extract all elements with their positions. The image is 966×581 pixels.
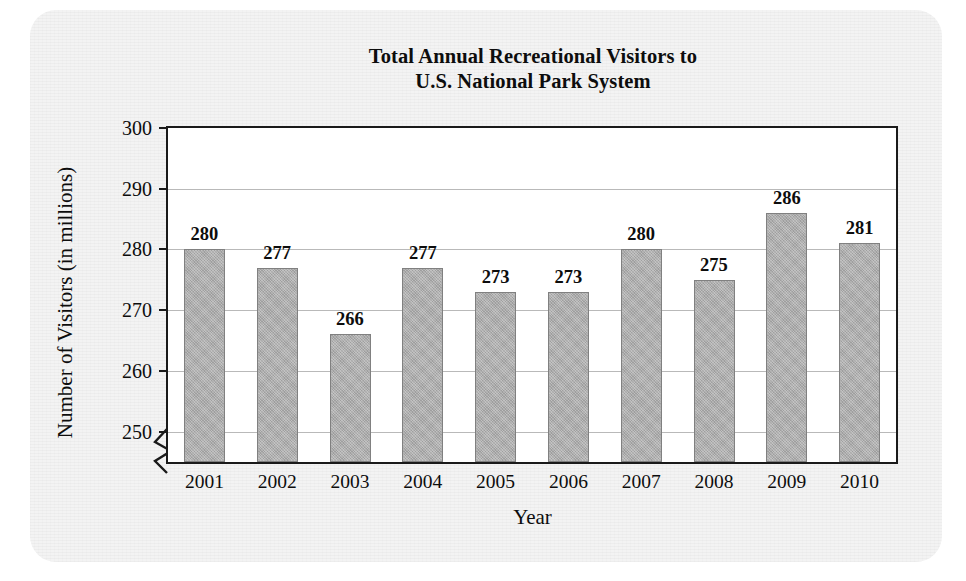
- y-tick-label-300: 300: [92, 118, 152, 138]
- y-tick-label-250: 250: [92, 422, 152, 442]
- chart-title-line-2: U.S. National Park System: [160, 69, 906, 94]
- bar-2005: [475, 292, 516, 462]
- bar-value-label-2001: 280: [168, 224, 241, 245]
- bar-2003: [330, 334, 371, 462]
- y-tick-label-280: 280: [92, 239, 152, 259]
- x-tick-label-2010: 2010: [823, 471, 896, 493]
- plot-area: 280277266277273273280275286281: [166, 126, 898, 464]
- bar-2002: [257, 268, 298, 462]
- y-tick-mark-290: [159, 188, 166, 190]
- bar-value-label-2010: 281: [823, 218, 896, 239]
- plot-inner: 280277266277273273280275286281: [168, 128, 896, 462]
- x-tick-label-2005: 2005: [459, 471, 532, 493]
- bar-value-label-2005: 273: [459, 267, 532, 288]
- x-tick-label-2008: 2008: [678, 471, 751, 493]
- x-tick-label-2006: 2006: [532, 471, 605, 493]
- chart-title: Total Annual Recreational Visitors to U.…: [160, 44, 906, 94]
- x-tick-label-2007: 2007: [605, 471, 678, 493]
- x-tick-label-2001: 2001: [168, 471, 241, 493]
- y-tick-mark-300: [159, 127, 166, 129]
- y-tick-mark-260: [159, 370, 166, 372]
- chart-title-line-1: Total Annual Recreational Visitors to: [160, 44, 906, 69]
- y-tick-label-260: 260: [92, 361, 152, 381]
- chart-page: Total Annual Recreational Visitors to U.…: [0, 0, 966, 581]
- bar-value-label-2006: 273: [532, 267, 605, 288]
- y-axis-title: Number of Visitors (in millions): [53, 128, 78, 478]
- x-tick-label-2003: 2003: [314, 471, 387, 493]
- bar-value-label-2008: 275: [678, 255, 751, 276]
- bar-2006: [548, 292, 589, 462]
- x-axis-title: Year: [165, 505, 900, 530]
- y-tick-mark-280: [159, 248, 166, 250]
- bar-value-label-2009: 286: [750, 188, 823, 209]
- y-tick-label-270: 270: [92, 300, 152, 320]
- bar-2008: [694, 280, 735, 462]
- x-tick-label-2002: 2002: [241, 471, 314, 493]
- y-tick-label-290: 290: [92, 179, 152, 199]
- bar-value-label-2002: 277: [241, 243, 314, 264]
- bar-2010: [839, 243, 880, 462]
- x-tick-label-2004: 2004: [386, 471, 459, 493]
- bar-value-label-2003: 266: [314, 309, 387, 330]
- bar-value-label-2007: 280: [605, 224, 678, 245]
- bar-value-label-2004: 277: [386, 243, 459, 264]
- y-tick-mark-270: [159, 309, 166, 311]
- bar-2004: [402, 268, 443, 462]
- bar-2007: [621, 249, 662, 462]
- x-tick-label-2009: 2009: [750, 471, 823, 493]
- bar-2009: [766, 213, 807, 462]
- bar-2001: [184, 249, 225, 462]
